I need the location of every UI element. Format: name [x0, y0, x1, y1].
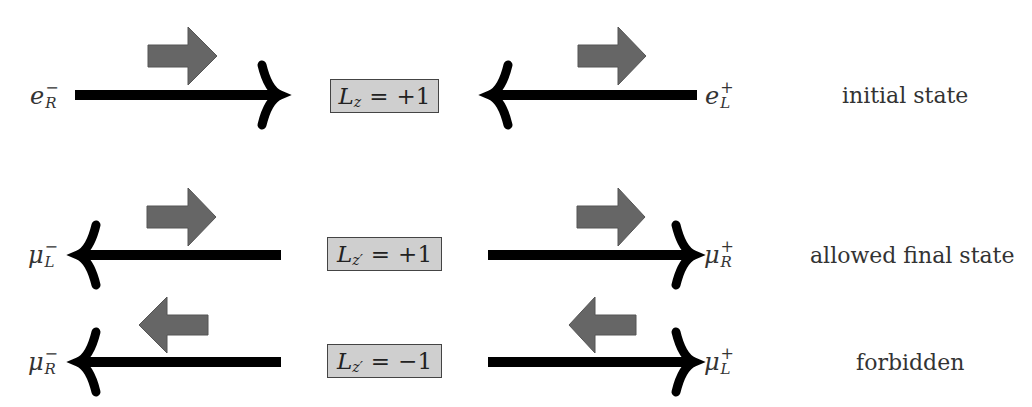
- box-subscript: z′: [352, 359, 363, 375]
- spin-arrow-left-icon: [139, 297, 208, 353]
- momentum-arrow-mu-minus-forbidden: [78, 332, 281, 392]
- box-symbol: L: [337, 241, 352, 267]
- spin-arrow-right-icon: [577, 188, 645, 246]
- box-value: +1: [398, 241, 432, 267]
- state-label: forbidden: [856, 350, 964, 375]
- particle-label-right: μ+L: [704, 350, 732, 374]
- arrows-layer: [0, 0, 1032, 407]
- helicity-diagram: e−R Lz=+1 e+L initial state μ−L Lz′=+1 μ…: [0, 0, 1032, 407]
- particle-helicity: L: [721, 362, 731, 377]
- momentum-arrow-e-plus: [490, 65, 697, 125]
- spin-arrow-right-icon: [148, 27, 217, 85]
- particle-label-left: μ−R: [28, 350, 56, 374]
- particle-helicity: R: [721, 255, 732, 270]
- particle-helicity: R: [45, 96, 56, 111]
- spin-arrow-left-icon: [569, 297, 636, 353]
- particle-helicity: R: [45, 362, 56, 377]
- box-subscript: z: [354, 94, 361, 110]
- particle-symbol: μ: [28, 241, 44, 269]
- particle-label-right: μ+R: [704, 243, 732, 267]
- box-symbol: L: [337, 348, 352, 374]
- box-equals: =: [369, 83, 388, 109]
- state-label: allowed final state: [810, 243, 1014, 268]
- angular-momentum-box: Lz′=+1: [327, 237, 442, 271]
- box-equals: =: [371, 348, 390, 374]
- state-label: initial state: [842, 83, 968, 108]
- angular-momentum-box: Lz=+1: [330, 79, 439, 113]
- box-symbol: L: [339, 83, 354, 109]
- spin-arrow-right-icon: [147, 188, 216, 246]
- particle-label-left: e−R: [30, 84, 56, 108]
- box-value: −1: [398, 348, 432, 374]
- box-subscript: z′: [352, 252, 363, 268]
- particle-label-right: e+L: [705, 84, 731, 108]
- box-equals: =: [371, 241, 390, 267]
- angular-momentum-box: Lz′=−1: [327, 344, 442, 378]
- particle-label-left: μ−L: [28, 243, 56, 267]
- particle-symbol: μ: [704, 241, 720, 269]
- spin-arrow-right-icon: [578, 27, 646, 85]
- particle-symbol: μ: [28, 348, 44, 376]
- box-value: +1: [397, 83, 431, 109]
- particle-helicity: L: [720, 96, 730, 111]
- momentum-arrow-e-minus: [75, 65, 280, 125]
- particle-symbol: μ: [704, 348, 720, 376]
- particle-symbol: e: [30, 82, 44, 110]
- momentum-arrow-mu-minus-allowed: [78, 225, 281, 285]
- momentum-arrow-mu-plus-allowed: [488, 225, 694, 285]
- particle-helicity: L: [45, 255, 55, 270]
- particle-symbol: e: [705, 82, 719, 110]
